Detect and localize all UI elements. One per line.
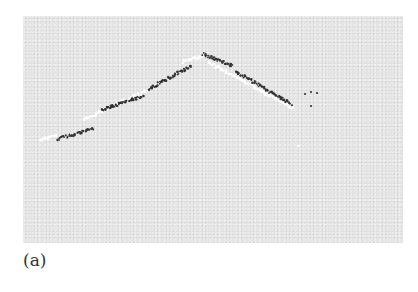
data-dot bbox=[86, 117, 89, 120]
data-dot bbox=[159, 81, 161, 83]
data-dot bbox=[283, 98, 285, 100]
data-dot bbox=[49, 135, 52, 138]
data-dot bbox=[167, 76, 169, 78]
data-dot bbox=[263, 86, 265, 88]
data-dot bbox=[81, 132, 83, 134]
data-dot bbox=[190, 66, 192, 68]
data-dot bbox=[187, 67, 189, 69]
light-dot-series bbox=[39, 52, 295, 141]
data-dot bbox=[253, 87, 255, 89]
data-dot bbox=[107, 106, 109, 108]
data-dot bbox=[91, 115, 94, 118]
data-dot bbox=[297, 145, 299, 147]
data-dot bbox=[51, 135, 53, 137]
data-dot bbox=[92, 128, 94, 130]
data-dot bbox=[287, 100, 289, 102]
data-dot bbox=[208, 55, 210, 57]
data-dot bbox=[231, 64, 233, 66]
data-dot bbox=[73, 133, 76, 136]
data-dot bbox=[291, 104, 293, 106]
data-dot bbox=[203, 52, 205, 54]
data-dot bbox=[88, 129, 90, 131]
data-dot bbox=[230, 73, 232, 75]
data-dot bbox=[180, 69, 183, 72]
data-dot bbox=[248, 77, 251, 80]
data-dot bbox=[215, 58, 217, 60]
data-dot bbox=[223, 69, 225, 71]
data-dot bbox=[251, 79, 253, 81]
data-dot bbox=[270, 91, 272, 93]
data-dot bbox=[219, 59, 221, 61]
data-dot bbox=[255, 81, 257, 83]
data-dot bbox=[156, 84, 158, 86]
data-dot bbox=[102, 109, 104, 111]
data-dot bbox=[176, 70, 178, 72]
data-dot bbox=[142, 95, 145, 98]
data-dot bbox=[224, 63, 226, 65]
data-dot bbox=[213, 63, 215, 65]
panel-label: (a) bbox=[23, 250, 46, 270]
data-dot bbox=[239, 75, 241, 77]
data-dot bbox=[118, 104, 120, 106]
data-dot bbox=[268, 92, 270, 94]
data-dot bbox=[197, 55, 199, 57]
data-dot bbox=[292, 106, 295, 109]
data-dot bbox=[289, 103, 291, 105]
data-dot bbox=[136, 96, 138, 98]
data-dot bbox=[63, 136, 65, 138]
data-dot bbox=[58, 139, 60, 141]
data-dot bbox=[208, 61, 211, 64]
data-dot bbox=[257, 84, 259, 86]
data-dot bbox=[65, 134, 67, 136]
data-dot bbox=[162, 81, 164, 83]
data-dot bbox=[310, 91, 312, 93]
data-dot bbox=[125, 101, 127, 103]
data-dot bbox=[82, 130, 84, 132]
data-dot bbox=[272, 91, 274, 93]
roof-line-plot bbox=[23, 16, 403, 243]
data-dot bbox=[223, 60, 225, 62]
data-dot bbox=[178, 73, 180, 75]
data-dot bbox=[266, 89, 268, 91]
data-dot bbox=[174, 73, 176, 75]
data-dot bbox=[310, 105, 312, 107]
data-dot bbox=[205, 53, 207, 55]
data-dot bbox=[241, 75, 243, 77]
data-dot bbox=[304, 93, 306, 95]
data-dot bbox=[225, 69, 228, 72]
data-dot bbox=[114, 105, 116, 107]
data-dot bbox=[257, 88, 259, 90]
data-dot bbox=[251, 82, 254, 85]
data-dot bbox=[116, 105, 118, 107]
data-dot bbox=[148, 89, 151, 92]
data-dot bbox=[105, 109, 107, 111]
data-dot bbox=[157, 81, 159, 83]
data-dot bbox=[140, 93, 142, 95]
data-dot bbox=[205, 54, 207, 56]
data-dot bbox=[144, 91, 146, 93]
stray-dots bbox=[297, 91, 318, 147]
data-dot bbox=[194, 56, 197, 59]
data-dot bbox=[213, 56, 216, 59]
figure-image-panel bbox=[23, 16, 403, 243]
data-dot bbox=[141, 91, 143, 93]
data-dot bbox=[238, 72, 240, 74]
data-dot bbox=[200, 56, 203, 59]
data-dot bbox=[90, 128, 92, 130]
data-dot bbox=[185, 58, 187, 60]
data-dot bbox=[126, 99, 128, 101]
dark-dot-series bbox=[56, 52, 293, 141]
data-dot bbox=[133, 99, 135, 101]
data-dot bbox=[165, 80, 167, 82]
data-dot bbox=[244, 75, 247, 78]
data-dot bbox=[271, 95, 273, 97]
data-dot bbox=[201, 54, 203, 56]
data-dot bbox=[247, 82, 249, 84]
data-dot bbox=[182, 62, 185, 65]
data-dot bbox=[67, 136, 69, 138]
data-dot bbox=[68, 133, 70, 135]
data-dot bbox=[226, 63, 228, 65]
data-dot bbox=[210, 55, 213, 58]
data-dot bbox=[184, 69, 186, 71]
data-dot bbox=[137, 93, 139, 95]
